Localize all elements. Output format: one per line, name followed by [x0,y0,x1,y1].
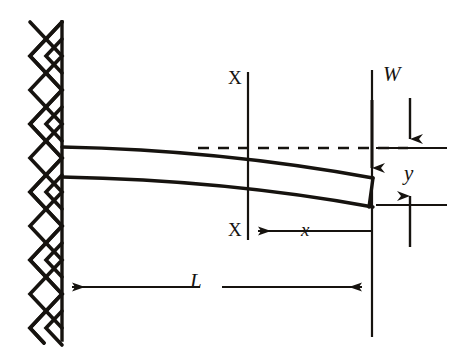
cantilever-beam-figure: W X X x y L [0,0,449,357]
fixed-support-wall [30,22,62,345]
label-section-top-x: X [228,68,242,87]
beam-bottom-edge [62,177,373,207]
beam-top-edge [62,147,373,178]
wall-hatching [30,22,62,345]
label-section-bottom-x: X [228,220,242,239]
label-distance-x: x [301,220,309,239]
label-length-l: L [190,271,202,292]
label-deflection-y: y [404,163,413,184]
cantilever-beam [62,147,373,207]
figure-canvas [0,0,449,357]
label-load-w: W [383,64,401,85]
